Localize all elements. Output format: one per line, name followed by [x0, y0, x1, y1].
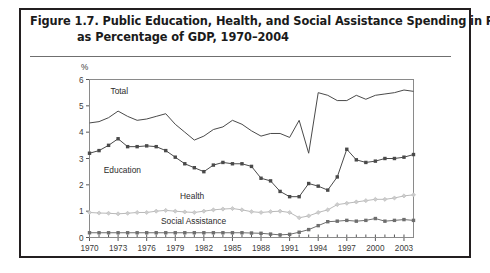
series-label-total: Total [110, 86, 128, 96]
y-tick-label: 2 [79, 181, 84, 190]
series-marker-education [326, 188, 329, 191]
series-marker-health [106, 211, 110, 215]
series-marker-health [126, 211, 130, 215]
series-marker-health [154, 209, 158, 213]
series-marker-health [192, 210, 196, 214]
series-marker-social [393, 219, 396, 222]
series-marker-education [240, 162, 243, 165]
series-marker-social [183, 231, 186, 234]
series-marker-social [135, 231, 138, 234]
series-marker-education [259, 177, 262, 180]
x-tick-label: 1991 [281, 244, 300, 253]
series-marker-education [336, 175, 339, 178]
figure-title: Figure 1.7. Public Education, Health, an… [30, 14, 450, 45]
x-tick-label: 1994 [309, 244, 328, 253]
figure-container: Figure 1.7. Public Education, Health, an… [0, 0, 490, 273]
series-marker-health [345, 201, 349, 205]
series-marker-health [259, 210, 263, 214]
series-marker-social [269, 232, 272, 235]
series-marker-education [183, 162, 186, 165]
series-marker-education [107, 144, 110, 147]
series-marker-education [202, 170, 205, 173]
x-tick-label: 1970 [80, 244, 99, 253]
series-marker-education [221, 161, 224, 164]
series-marker-social [374, 217, 377, 220]
series-marker-health [202, 209, 206, 213]
series-marker-social [221, 231, 224, 234]
series-marker-health [249, 210, 253, 214]
series-marker-health [145, 210, 149, 214]
chart-series [87, 90, 415, 237]
x-tick-label: 1988 [252, 244, 271, 253]
series-marker-education [374, 159, 377, 162]
series-marker-social [364, 219, 367, 222]
series-marker-education [269, 179, 272, 182]
series-marker-education [307, 182, 310, 185]
series-marker-social [412, 219, 415, 222]
series-marker-education [174, 155, 177, 158]
series-marker-health [335, 202, 339, 206]
series-marker-health [268, 210, 272, 214]
x-tick-label: 1997 [338, 244, 357, 253]
series-marker-health [364, 199, 368, 203]
x-tick-label: 1973 [109, 244, 128, 253]
series-marker-health [326, 208, 330, 212]
series-marker-health [278, 209, 282, 213]
series-marker-social [155, 231, 158, 234]
y-tick-label: 0 [79, 234, 84, 243]
series-marker-social [193, 231, 196, 234]
series-label-social: Social Assistance [161, 216, 227, 226]
series-marker-education [145, 144, 148, 147]
series-marker-social [107, 231, 110, 234]
series-marker-education [317, 184, 320, 187]
series-marker-education [135, 145, 138, 148]
series-marker-health [221, 207, 225, 211]
y-tick-label: 1 [79, 207, 84, 216]
series-marker-education [164, 149, 167, 152]
series-marker-social [250, 231, 253, 234]
series-marker-education [193, 166, 196, 169]
series-marker-education [297, 195, 300, 198]
series-marker-social [288, 233, 291, 236]
series-marker-health [135, 210, 139, 214]
series-marker-education [116, 137, 119, 140]
line-chart: % 0123456 197019731976197919821985198819… [19, 58, 471, 254]
series-marker-health [97, 211, 101, 215]
series-marker-social [345, 219, 348, 222]
series-marker-social [307, 228, 310, 231]
series-marker-social [383, 219, 386, 222]
title-line-1: Figure 1.7. Public Education, Health, an… [30, 14, 450, 30]
series-marker-health [173, 209, 177, 213]
series-marker-health [183, 210, 187, 214]
series-marker-social [88, 231, 91, 234]
y-axis: 0123456 [79, 76, 90, 243]
series-marker-education [412, 153, 415, 156]
y-tick-label: 5 [79, 102, 84, 111]
series-marker-health [288, 210, 292, 214]
series-marker-education [278, 190, 281, 193]
series-marker-health [373, 197, 377, 201]
x-tick-label: 1976 [138, 244, 157, 253]
series-marker-social [174, 231, 177, 234]
series-marker-education [212, 163, 215, 166]
series-marker-education [126, 145, 129, 148]
series-marker-health [164, 208, 168, 212]
y-tick-label: 4 [79, 128, 84, 137]
y-axis-unit-label: % [81, 63, 88, 72]
series-marker-social [402, 218, 405, 221]
y-tick-label: 3 [79, 155, 84, 164]
series-marker-social [259, 232, 262, 235]
series-marker-social [164, 231, 167, 234]
series-marker-health [297, 216, 301, 220]
series-marker-social [355, 219, 358, 222]
series-marker-education [364, 161, 367, 164]
series-line-health [90, 195, 414, 218]
x-tick-label: 1979 [166, 244, 185, 253]
title-divider [30, 56, 451, 57]
chart-axes: % 0123456 197019731976197919821985198819… [79, 63, 414, 253]
series-marker-social [326, 220, 329, 223]
series-marker-health [307, 214, 311, 218]
series-line-total [90, 90, 414, 153]
x-tick-label: 1985 [223, 244, 242, 253]
series-marker-health [354, 200, 358, 204]
